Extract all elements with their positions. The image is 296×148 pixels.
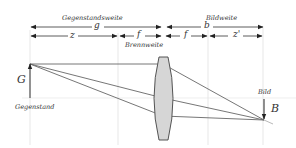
lens bbox=[154, 57, 173, 140]
diagram-canvas bbox=[0, 0, 296, 148]
image-symbol: B bbox=[271, 103, 279, 114]
image-title: Bild bbox=[258, 89, 271, 96]
z-symbol: z bbox=[70, 31, 75, 40]
focal-right-symbol: f bbox=[184, 30, 187, 39]
object-symbol: G bbox=[17, 74, 26, 85]
image-distance-symbol: b bbox=[204, 21, 210, 30]
light-rays bbox=[30, 64, 264, 120]
object-distance-symbol: g bbox=[94, 21, 100, 30]
object-title: Gegenstand bbox=[15, 104, 54, 111]
image-distance-title: Bildweite bbox=[206, 15, 237, 22]
lens-diagram: Gegenstandsweite g Bildweite b z f f z' … bbox=[0, 0, 296, 148]
object-distance-title: Gegenstandsweite bbox=[62, 15, 123, 22]
focal-length-title: Brennweite bbox=[125, 42, 163, 49]
focal-left-symbol: f bbox=[137, 30, 140, 39]
z-prime-symbol: z' bbox=[233, 30, 240, 39]
